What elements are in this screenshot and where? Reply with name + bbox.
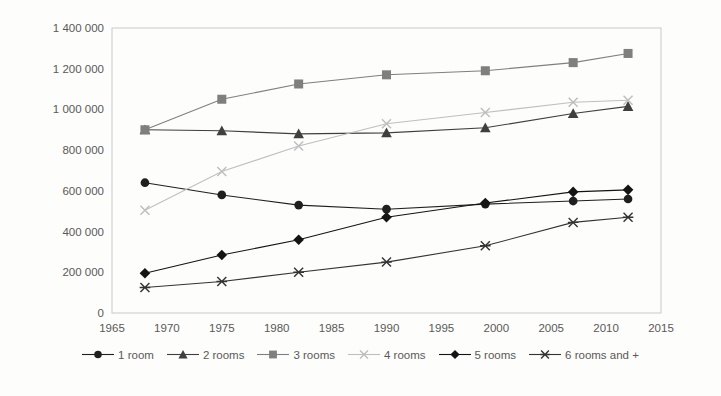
x-axis-tick-label: 1990 (374, 322, 400, 334)
legend-triangle-icon (167, 348, 199, 361)
legend-item-1-room: 1 room (82, 348, 154, 361)
circle-marker-icon (94, 351, 102, 359)
asterisk-marker-icon (623, 213, 634, 222)
y-axis-tick-label: 200 000 (62, 266, 104, 278)
square-marker-icon (217, 95, 226, 104)
asterisk-marker-icon (381, 258, 392, 267)
diamond-marker-icon (623, 185, 634, 196)
x-axis-tick-label: 2010 (593, 322, 619, 334)
diamond-marker-icon (293, 234, 304, 245)
diamond-marker-icon (450, 350, 459, 359)
legend-item-3-rooms: 3 rooms (257, 348, 335, 361)
x-marker-icon (140, 206, 149, 215)
legend-x-icon (348, 348, 380, 361)
y-axis-tick-label: 0 (98, 307, 104, 319)
asterisk-marker-icon (293, 268, 304, 277)
x-axis-tick-label: 1985 (319, 322, 345, 334)
asterisk-marker-icon (480, 241, 491, 250)
square-marker-icon (294, 79, 303, 88)
legend-asterisk-icon (529, 348, 561, 361)
y-axis-tick-label: 600 000 (62, 185, 104, 197)
circle-marker-icon (569, 197, 578, 206)
legend-label: 1 room (118, 349, 154, 361)
asterisk-marker-icon (217, 277, 228, 286)
legend-circle-icon (82, 348, 114, 361)
legend-item-2-rooms: 2 rooms (167, 348, 245, 361)
legend-label: 5 rooms (475, 349, 517, 361)
legend-label: 4 rooms (384, 349, 426, 361)
legend-item-5-rooms: 5 rooms (439, 348, 517, 361)
diamond-marker-icon (568, 187, 579, 198)
square-marker-icon (382, 70, 391, 79)
series-line-3-rooms (145, 53, 628, 129)
circle-marker-icon (141, 178, 150, 187)
square-marker-icon (140, 125, 149, 134)
legend-label: 2 rooms (203, 349, 245, 361)
asterisk-marker-icon (568, 218, 579, 227)
x-axis-tick-label: 1970 (154, 322, 180, 334)
asterisk-marker-icon (540, 351, 549, 359)
square-marker-icon (481, 66, 490, 75)
rooms-line-chart: 0200 000400 000600 000800 0001 000 0001 … (0, 0, 721, 396)
legend-label: 6 rooms and + (565, 349, 639, 361)
x-marker-icon (217, 167, 226, 176)
y-axis-tick-label: 800 000 (62, 144, 104, 156)
diamond-marker-icon (140, 268, 151, 279)
diamond-marker-icon (381, 212, 392, 223)
x-axis-tick-label: 2000 (484, 322, 510, 334)
y-axis-tick-label: 400 000 (62, 226, 104, 238)
series-line-5-rooms (145, 190, 628, 273)
y-axis-tick-label: 1 400 000 (53, 22, 104, 34)
square-marker-icon (569, 58, 578, 67)
diamond-marker-icon (217, 250, 228, 261)
legend-item-6-rooms-and-: 6 rooms and + (529, 348, 639, 361)
square-marker-icon (624, 49, 633, 58)
x-axis-tick-label: 1975 (209, 322, 235, 334)
x-axis-tick-label: 1995 (429, 322, 455, 334)
circle-marker-icon (624, 195, 633, 204)
legend-label: 3 rooms (293, 349, 335, 361)
y-axis-tick-label: 1 200 000 (53, 63, 104, 75)
diamond-marker-icon (480, 198, 491, 209)
chart-legend: 1 room2 rooms3 rooms4 rooms5 rooms6 room… (0, 348, 721, 361)
asterisk-marker-icon (140, 283, 151, 292)
x-axis-tick-label: 2005 (538, 322, 564, 334)
line-chart-canvas: 0200 000400 000600 000800 0001 000 0001 … (0, 0, 721, 346)
x-axis-tick-label: 1980 (264, 322, 290, 334)
legend-diamond-icon (439, 348, 471, 361)
square-marker-icon (270, 351, 278, 359)
legend-square-icon (257, 348, 289, 361)
triangle-marker-icon (623, 101, 634, 111)
circle-marker-icon (217, 191, 226, 200)
x-marker-icon (294, 142, 303, 151)
x-axis-tick-label: 1965 (99, 322, 125, 334)
y-axis-tick-label: 1 000 000 (53, 103, 104, 115)
legend-item-4-rooms: 4 rooms (348, 348, 426, 361)
circle-marker-icon (294, 201, 303, 210)
x-axis-tick-label: 2015 (648, 322, 674, 334)
